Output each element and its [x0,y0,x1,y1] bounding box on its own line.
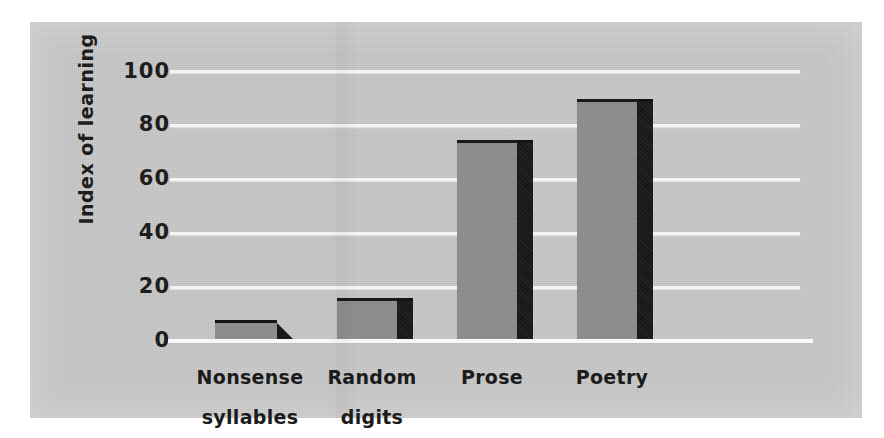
axis-baseline [168,339,813,343]
y-tick-label-0: 0 [50,328,170,352]
y-tick-label-80: 80 [50,112,170,136]
x-tick-label-random-digits: Random digits [307,348,437,428]
x-label-line-1: Random [327,366,416,388]
x-label-line-1: Prose [461,366,523,388]
bar-nonsense-syllables [215,323,277,339]
chart-panel: Index of learning 100 80 60 40 20 0 [30,22,862,418]
x-label-line-2: syllables [202,406,299,428]
bar-front-face [457,140,517,339]
gridline-100 [170,70,800,73]
bar-random-digits [337,301,397,339]
x-tick-label-prose: Prose [427,348,557,388]
x-label-line-2: digits [341,406,403,428]
bar-front-face [577,99,637,339]
bar-side-face [397,301,413,339]
bar-side-face [637,102,653,339]
bar-side-face [277,323,293,339]
x-tick-label-nonsense-syllables: Nonsense syllables [180,348,320,428]
bar-front-face [337,298,397,339]
gridline-80 [170,124,800,127]
bar-prose [457,143,517,339]
x-tick-label-poetry: Poetry [547,348,677,388]
x-label-line-1: Poetry [576,366,649,388]
x-label-line-1: Nonsense [197,366,304,388]
y-tick-label-60: 60 [50,166,170,190]
bar-side-face [517,143,533,339]
bar-front-face [215,323,277,339]
y-tick-label-100: 100 [50,59,170,83]
y-tick-label-40: 40 [50,220,170,244]
bar-poetry [577,102,637,339]
chart-page: Index of learning 100 80 60 40 20 0 [0,0,884,438]
y-tick-label-20: 20 [50,274,170,298]
